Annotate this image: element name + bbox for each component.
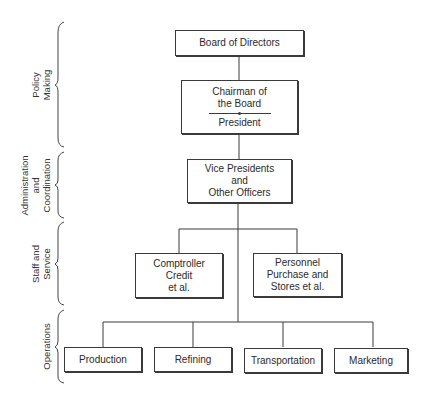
- label-line: Service: [41, 248, 52, 280]
- node-text: Chairman of: [212, 86, 266, 98]
- level-label-administration: Administration and Coordination: [19, 146, 52, 226]
- node-text: Purchase and: [267, 269, 329, 281]
- label-line: Operations: [41, 323, 52, 369]
- node-marketing: Marketing: [334, 348, 408, 373]
- node-transportation: Transportation: [244, 348, 322, 373]
- level-label-policy-making: Policy Making: [30, 55, 52, 115]
- brace-policy: [55, 22, 64, 147]
- node-text: et al.: [168, 282, 190, 294]
- node-vice-presidents: Vice Presidents and Other Officers: [187, 159, 292, 203]
- node-text: and: [231, 175, 248, 187]
- node-text: Stores et al.: [271, 281, 324, 293]
- label-line: and: [30, 178, 41, 194]
- node-text: Refining: [175, 354, 212, 366]
- node-chairman-president: Chairman of the Board President: [181, 80, 298, 134]
- node-personnel: Personnel Purchase and Stores et al.: [253, 253, 342, 297]
- label-line: Policy: [30, 72, 41, 97]
- node-text: Comptroller: [153, 258, 205, 270]
- separator-line: [209, 113, 271, 114]
- node-text: the Board: [218, 98, 261, 110]
- node-text: Vice Presidents: [205, 163, 274, 175]
- brace-staff: [55, 222, 64, 305]
- brace-operations: [55, 310, 64, 383]
- node-text: Marketing: [349, 355, 393, 367]
- label-line: Staff and: [30, 245, 41, 283]
- node-text: Board of Directors: [199, 37, 280, 49]
- node-comptroller: Comptroller Credit et al.: [135, 253, 223, 298]
- node-text: Transportation: [251, 355, 315, 367]
- node-text: President: [218, 117, 260, 129]
- level-label-staff-service: Staff and Service: [30, 234, 52, 294]
- label-line: Making: [41, 70, 52, 101]
- node-production: Production: [64, 347, 142, 372]
- node-board-of-directors: Board of Directors: [175, 30, 304, 56]
- label-line: Coordination: [41, 159, 52, 213]
- node-text: Production: [79, 354, 127, 366]
- label-line: Administration: [19, 155, 30, 215]
- node-text: Other Officers: [208, 187, 270, 199]
- level-label-operations: Operations: [41, 317, 52, 377]
- node-refining: Refining: [154, 347, 232, 372]
- brace-administration: [55, 152, 64, 218]
- node-text: Credit: [166, 270, 193, 282]
- node-text: Personnel: [275, 257, 320, 269]
